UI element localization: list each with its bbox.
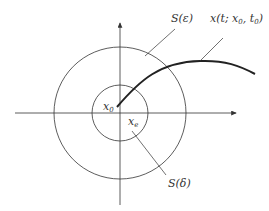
leader-s-epsilon: [145, 29, 175, 56]
label-s-delta: S(δ): [168, 177, 191, 190]
leader-trajectory: [200, 38, 223, 61]
label-xe: xe: [128, 115, 138, 129]
trajectory-curve: [117, 61, 255, 107]
label-x0: x0: [103, 100, 114, 114]
label-trajectory: x(t; x0, t0): [210, 12, 263, 26]
leader-s-delta: [132, 131, 166, 175]
stability-diagram: S(ε) x(t; x0, t0) x0 xe S(δ): [0, 0, 269, 211]
label-s-epsilon: S(ε): [171, 12, 193, 25]
